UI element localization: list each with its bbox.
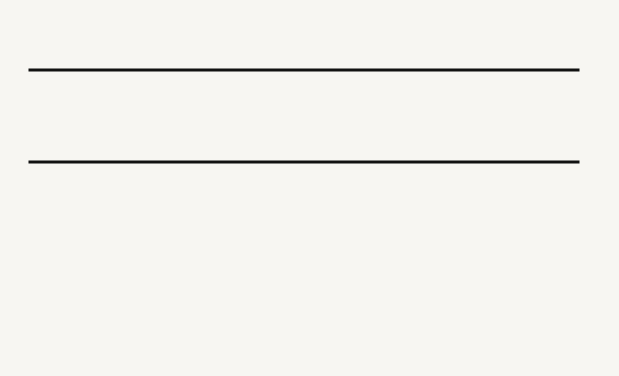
tape-assembly [30,70,578,162]
diagram-canvas [0,0,619,376]
helical-scan-diagram [0,0,619,376]
